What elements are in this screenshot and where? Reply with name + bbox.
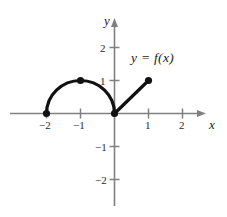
- point-neg2-0: [43, 110, 50, 117]
- y-axis-arrowhead: [111, 18, 118, 27]
- x-tick-label--2: −2: [39, 120, 51, 131]
- function-graph-figure: −2 −1 1 2 2 1 −1 −2 y x y = f(x): [0, 0, 227, 217]
- y-tick-label-2: 2: [100, 43, 106, 54]
- x-axis-label: x: [209, 118, 215, 131]
- x-tick-label-2: 2: [179, 120, 185, 131]
- point-0-0: [111, 110, 118, 117]
- point-1-1: [145, 77, 152, 84]
- plot-area: [0, 0, 227, 217]
- x-axis-arrowhead: [197, 110, 206, 117]
- y-axis-label: y: [104, 14, 110, 27]
- y-tick-label--1: −1: [95, 142, 107, 153]
- line-segment-curve: [115, 81, 149, 114]
- point-neg1-1: [77, 77, 84, 84]
- x-tick-label--1: −1: [73, 120, 85, 131]
- y-tick-label--2: −2: [95, 175, 107, 186]
- function-annotation-label: y = f(x): [131, 51, 174, 65]
- x-tick-label-1: 1: [145, 120, 151, 131]
- y-tick-label-1: 1: [100, 76, 106, 87]
